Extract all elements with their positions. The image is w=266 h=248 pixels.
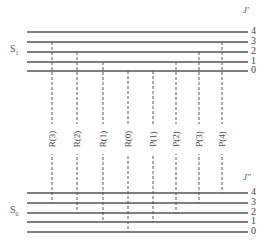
upper-level-label: 0 bbox=[251, 65, 256, 75]
upper-j-axis-label: J′ bbox=[243, 5, 249, 15]
transition-label: R(2) bbox=[72, 124, 82, 154]
energy-level-diagram: J′ J″ S1 S0 4321043210 R(3)R(2)R(1)R(0)P… bbox=[0, 0, 266, 248]
transition-label: R(3) bbox=[47, 124, 57, 154]
figure-caption bbox=[40, 238, 230, 246]
lower-level-label: 0 bbox=[251, 226, 256, 236]
lower-j-axis-label: J″ bbox=[243, 172, 251, 182]
upper-state-label: S1 bbox=[10, 43, 19, 56]
transition-label: R(0) bbox=[123, 124, 133, 154]
transition-label: R(1) bbox=[98, 124, 108, 154]
transition-label: P(1) bbox=[148, 124, 158, 154]
transition-label: P(4) bbox=[217, 124, 227, 154]
lower-state-label: S0 bbox=[10, 204, 19, 217]
transition-label: P(3) bbox=[194, 124, 204, 154]
transition-label: P(2) bbox=[171, 124, 181, 154]
